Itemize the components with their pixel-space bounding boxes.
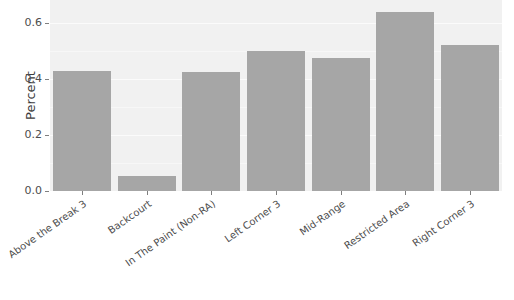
bar (182, 72, 240, 191)
x-tick-mark (211, 191, 212, 195)
bar (53, 71, 111, 191)
y-tick-label: 0.2 (0, 128, 42, 141)
bar (441, 45, 499, 191)
x-tick-mark (405, 191, 406, 195)
bar (376, 12, 434, 191)
bar (312, 58, 370, 191)
y-tick-mark (45, 23, 49, 24)
y-tick-label: 0.0 (0, 184, 42, 197)
x-tick-mark (470, 191, 471, 195)
bar (118, 176, 176, 191)
y-tick-mark (45, 79, 49, 80)
gridline-major (50, 23, 502, 24)
x-tick-mark (82, 191, 83, 195)
x-tick-mark (341, 191, 342, 195)
y-tick-mark (45, 135, 49, 136)
y-tick-label: 0.6 (0, 16, 42, 29)
bar-chart: Percent 0.00.20.40.6Above the Break 3Bac… (0, 0, 514, 300)
y-tick-mark (45, 191, 49, 192)
x-tick-mark (276, 191, 277, 195)
x-tick-mark (147, 191, 148, 195)
bar (247, 51, 305, 191)
y-tick-label: 0.4 (0, 72, 42, 85)
plot-panel (50, 0, 502, 191)
